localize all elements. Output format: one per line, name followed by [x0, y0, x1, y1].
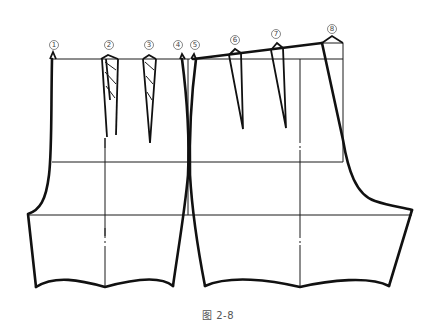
dart-8-top	[322, 36, 343, 43]
back-side-seam	[322, 43, 412, 210]
pattern-diagram: 1 2 3 4 5 6 7 8	[0, 0, 438, 335]
svg-text:7: 7	[274, 30, 278, 38]
dart-3-hatch-2	[146, 76, 153, 84]
svg-text:6: 6	[233, 36, 238, 44]
front-piece	[28, 59, 189, 287]
back-waist-seam	[193, 43, 322, 59]
marker-2: 2	[105, 41, 114, 50]
marker-3: 3	[145, 41, 154, 50]
svg-text:5: 5	[193, 41, 197, 49]
marker-8: 8	[328, 25, 337, 34]
dart-6	[229, 53, 243, 129]
front-side-seam	[28, 59, 52, 287]
marker-1: 1	[50, 41, 59, 50]
svg-text:3: 3	[147, 41, 151, 49]
marker-5: 5	[191, 41, 200, 50]
pleat-2-right	[116, 59, 118, 135]
svg-text:2: 2	[107, 41, 111, 49]
dart-7	[271, 48, 286, 128]
dart-1	[50, 52, 56, 59]
pleat-2-hatch-2	[105, 72, 116, 84]
figure-caption: 图 2-8	[202, 307, 234, 322]
back-piece	[190, 43, 412, 287]
dart-3-hatch-3	[147, 92, 152, 100]
dart-3-hatch-1	[145, 62, 154, 70]
back-lower-side	[389, 210, 412, 286]
dart-3-top	[143, 55, 156, 59]
marker-6: 6	[231, 36, 240, 45]
svg-text:8: 8	[330, 25, 334, 33]
marker-4: 4	[174, 41, 183, 50]
marker-7: 7	[272, 30, 281, 39]
back-hem	[205, 280, 389, 287]
back-inseam	[190, 59, 205, 286]
svg-text:4: 4	[176, 41, 181, 49]
construction-lines	[28, 43, 412, 287]
dart-3-legs	[143, 59, 156, 143]
pleat-2-outline	[101, 55, 118, 59]
darts	[50, 36, 343, 143]
svg-text:1: 1	[52, 41, 56, 49]
front-inseam	[173, 59, 189, 286]
